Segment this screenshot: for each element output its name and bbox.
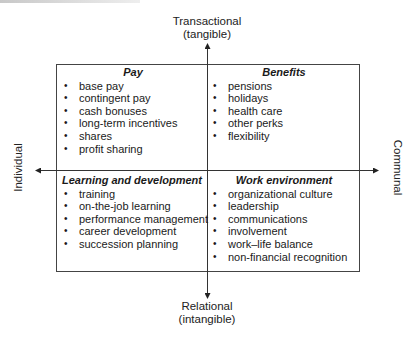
axis-label-transactional: Transactional (tangible) bbox=[157, 15, 257, 41]
quadrant-title: Work environment bbox=[211, 174, 357, 187]
list-item: •performance management bbox=[62, 213, 207, 226]
axis-label-bottom-line1: Relational bbox=[157, 300, 257, 313]
axis-label-relational: Relational (intangible) bbox=[157, 300, 257, 326]
list-item: •involvement bbox=[211, 225, 357, 238]
quadrant-list: •training •on-the-job learning •performa… bbox=[62, 188, 207, 251]
bullet-icon: • bbox=[64, 143, 68, 156]
quadrant-pay: Pay •base pay •contingent pay •cash bonu… bbox=[62, 66, 204, 155]
bullet-icon: • bbox=[64, 92, 68, 105]
list-item: •contingent pay bbox=[62, 92, 204, 105]
list-item: •non-financial recognition bbox=[211, 251, 357, 264]
quadrant-learning-and-development: Learning and development •training •on-t… bbox=[62, 174, 207, 251]
list-item: •organizational culture bbox=[211, 188, 357, 201]
list-item: •career development bbox=[62, 225, 207, 238]
bullet-icon: • bbox=[64, 200, 68, 213]
quadrant-list: •pensions •holidays •health care •other … bbox=[211, 80, 357, 143]
matrix-axes bbox=[0, 0, 415, 339]
list-item: •shares bbox=[62, 130, 204, 143]
quadrant-title: Learning and development bbox=[62, 174, 207, 187]
bullet-icon: • bbox=[64, 188, 68, 201]
axis-label-top-line2: (tangible) bbox=[157, 28, 257, 41]
quadrant-work-environment: Work environment •organizational culture… bbox=[211, 174, 357, 263]
list-item: •training bbox=[62, 188, 207, 201]
list-item: •succession planning bbox=[62, 238, 207, 251]
bullet-icon: • bbox=[213, 188, 217, 201]
bullet-icon: • bbox=[64, 225, 68, 238]
bullet-icon: • bbox=[213, 92, 217, 105]
list-item: •long-term incentives bbox=[62, 117, 204, 130]
list-item: •cash bonuses bbox=[62, 105, 204, 118]
bullet-icon: • bbox=[213, 130, 217, 143]
quadrant-title: Pay bbox=[62, 66, 204, 79]
bullet-icon: • bbox=[64, 238, 68, 251]
bullet-icon: • bbox=[213, 80, 217, 93]
list-item: •communications bbox=[211, 213, 357, 226]
list-item: •other perks bbox=[211, 117, 357, 130]
bullet-icon: • bbox=[64, 130, 68, 143]
list-item: •profit sharing bbox=[62, 143, 204, 156]
bullet-icon: • bbox=[64, 117, 68, 130]
list-item: •holidays bbox=[211, 92, 357, 105]
bullet-icon: • bbox=[64, 213, 68, 226]
bullet-icon: • bbox=[64, 105, 68, 118]
quadrant-benefits: Benefits •pensions •holidays •health car… bbox=[211, 66, 357, 143]
bullet-icon: • bbox=[213, 238, 217, 251]
list-item: •pensions bbox=[211, 80, 357, 93]
list-item: •work–life balance bbox=[211, 238, 357, 251]
list-item: •leadership bbox=[211, 200, 357, 213]
axis-label-top-line1: Transactional bbox=[157, 15, 257, 28]
list-item: •flexibility bbox=[211, 130, 357, 143]
quadrant-list: •organizational culture •leadership •com… bbox=[211, 188, 357, 264]
list-item: •on-the-job learning bbox=[62, 200, 207, 213]
axis-label-communal: Communal bbox=[391, 131, 404, 205]
bullet-icon: • bbox=[213, 117, 217, 130]
bullet-icon: • bbox=[64, 80, 68, 93]
bullet-icon: • bbox=[213, 251, 217, 264]
quadrant-title: Benefits bbox=[211, 66, 357, 79]
list-item: •base pay bbox=[62, 80, 204, 93]
bullet-icon: • bbox=[213, 105, 217, 118]
list-item: •health care bbox=[211, 105, 357, 118]
quadrant-list: •base pay •contingent pay •cash bonuses … bbox=[62, 80, 204, 156]
bullet-icon: • bbox=[213, 200, 217, 213]
axis-label-bottom-line2: (intangible) bbox=[157, 313, 257, 326]
bullet-icon: • bbox=[213, 213, 217, 226]
bullet-icon: • bbox=[213, 225, 217, 238]
axis-label-individual: Individual bbox=[12, 136, 25, 200]
